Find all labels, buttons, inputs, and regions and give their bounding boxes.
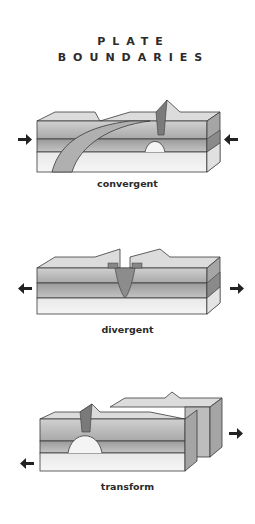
divergent-label: divergent [0,324,255,335]
arrow-right-icon [18,134,32,145]
transform-diagram [0,385,255,485]
convergent-diagram [0,80,255,185]
arrow-right-icon [230,283,244,294]
transform-label: transform [0,481,255,492]
arrow-right-icon [229,428,243,439]
arrow-left-icon [18,283,32,294]
divergent-diagram [0,240,255,320]
title-line-2: BOUNDARIES [0,51,255,64]
convergent-label: convergent [0,178,255,189]
arrow-left-icon [224,134,238,145]
arrow-left-icon [20,458,34,469]
title-line-1: PLATE [0,35,255,48]
